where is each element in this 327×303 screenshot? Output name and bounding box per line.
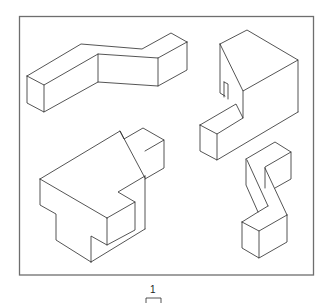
figure-frame	[20, 17, 314, 276]
figure-number: 1	[150, 284, 156, 295]
caption-box	[146, 298, 161, 303]
isometric-figure: 1	[0, 0, 327, 303]
shape-z-bar	[27, 33, 187, 112]
shape-notched-block	[200, 30, 298, 160]
shape-stepped-block	[40, 128, 164, 262]
shape-s-column	[242, 142, 291, 258]
